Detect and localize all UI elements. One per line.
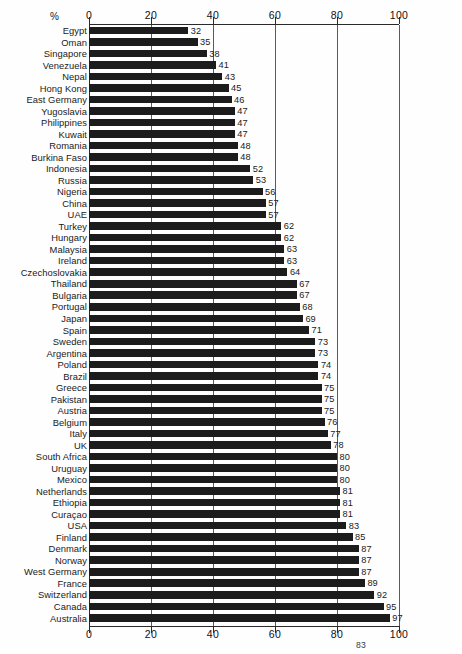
bar xyxy=(89,245,284,253)
chart-row: Oman35 xyxy=(0,37,462,49)
chart-row: Venezuela41 xyxy=(0,60,462,72)
chart-row: Spain71 xyxy=(0,325,462,337)
bar xyxy=(89,96,232,104)
category-label: Czechoslovakia xyxy=(0,267,87,278)
bar xyxy=(89,234,281,242)
chart-row: Denmark87 xyxy=(0,543,462,555)
bar-value-label: 71 xyxy=(312,325,322,336)
bar-value-label: 43 xyxy=(225,72,235,83)
chart-row: Czechoslovakia64 xyxy=(0,267,462,279)
bar-value-label: 75 xyxy=(324,406,334,417)
bar xyxy=(89,476,337,484)
bar-value-label: 48 xyxy=(240,152,250,163)
bar-value-label: 74 xyxy=(321,360,331,371)
category-label: Pakistan xyxy=(0,394,87,405)
bar-value-label: 80 xyxy=(340,463,350,474)
category-label: South Africa xyxy=(0,451,87,462)
category-label: Malaysia xyxy=(0,244,87,255)
bar-value-label: 47 xyxy=(237,106,247,117)
bar xyxy=(89,153,238,161)
bar-value-label: 76 xyxy=(327,417,337,428)
bar xyxy=(89,84,229,92)
chart-row: Philippines47 xyxy=(0,117,462,129)
axis-top-tickmark-80 xyxy=(337,17,338,24)
axis-bottom-tickmark-80 xyxy=(337,626,338,633)
bar-value-label: 62 xyxy=(284,233,294,244)
bar xyxy=(89,326,309,334)
chart-row: Pakistan75 xyxy=(0,394,462,406)
category-label: Norway xyxy=(0,555,87,566)
axis-top-tickmark-20 xyxy=(151,17,152,24)
chart-row: France89 xyxy=(0,578,462,590)
bar-value-label: 87 xyxy=(361,544,371,555)
category-label: Brazil xyxy=(0,371,87,382)
category-label: China xyxy=(0,198,87,209)
bar-value-label: 67 xyxy=(299,279,309,290)
chart-row: Romania48 xyxy=(0,140,462,152)
bar xyxy=(89,418,325,426)
category-label: USA xyxy=(0,520,87,531)
chart-row: Nepal43 xyxy=(0,71,462,83)
bar-value-label: 64 xyxy=(290,267,300,278)
bar-value-label: 57 xyxy=(268,210,278,221)
axis-bottom-tickmark-20 xyxy=(151,626,152,633)
chart-row: Sweden73 xyxy=(0,336,462,348)
bar xyxy=(89,61,216,69)
axis-bottom-tickmark-0 xyxy=(89,626,90,633)
category-label: Burkina Faso xyxy=(0,152,87,163)
category-label: Italy xyxy=(0,428,87,439)
bar xyxy=(89,38,198,46)
bar-value-label: 69 xyxy=(305,314,315,325)
category-label: Hong Kong xyxy=(0,83,87,94)
bar xyxy=(89,579,365,587)
chart-row: Ireland63 xyxy=(0,255,462,267)
bar xyxy=(89,522,346,530)
axis-bottom-tickmark-60 xyxy=(275,626,276,633)
bar xyxy=(89,303,300,311)
chart-row: Nigeria56 xyxy=(0,186,462,198)
bar-value-label: 81 xyxy=(343,509,353,520)
bar xyxy=(89,614,390,622)
chart-row: Austria75 xyxy=(0,405,462,417)
chart-row: West Germany87 xyxy=(0,566,462,578)
chart-row: Japan69 xyxy=(0,313,462,325)
bar xyxy=(89,130,235,138)
category-label: Turkey xyxy=(0,221,87,232)
category-label: Denmark xyxy=(0,543,87,554)
chart-row: Finland85 xyxy=(0,532,462,544)
bottom-axis-rule xyxy=(89,626,399,627)
bar xyxy=(89,568,359,576)
bar xyxy=(89,257,284,265)
bar-value-label: 80 xyxy=(340,452,350,463)
chart-row: Poland74 xyxy=(0,359,462,371)
category-label: Portugal xyxy=(0,301,87,312)
bar xyxy=(89,315,303,323)
chart-row: Turkey62 xyxy=(0,221,462,233)
bar xyxy=(89,268,287,276)
category-label: Australia xyxy=(0,613,87,624)
category-label: Curaçao xyxy=(0,509,87,520)
bar-value-label: 45 xyxy=(231,83,241,94)
chart-row: Thailand67 xyxy=(0,278,462,290)
bar-value-label: 77 xyxy=(330,429,340,440)
bar-value-label: 35 xyxy=(200,37,210,48)
bar xyxy=(89,533,353,541)
chart-row: Italy77 xyxy=(0,428,462,440)
chart-row: UK78 xyxy=(0,440,462,452)
bar xyxy=(89,361,318,369)
chart-row: Curaçao81 xyxy=(0,509,462,521)
chart-row: USA83 xyxy=(0,520,462,532)
axis-top-tickmark-100 xyxy=(399,17,400,24)
bar xyxy=(89,545,359,553)
bar xyxy=(89,407,322,415)
category-label: Switzerland xyxy=(0,589,87,600)
bar xyxy=(89,556,359,564)
bar-value-label: 75 xyxy=(324,383,334,394)
bar xyxy=(89,280,297,288)
bar xyxy=(89,372,318,380)
bar xyxy=(89,165,250,173)
category-label: Hungary xyxy=(0,232,87,243)
bar xyxy=(89,464,337,472)
bar xyxy=(89,176,253,184)
category-label: Nigeria xyxy=(0,186,87,197)
